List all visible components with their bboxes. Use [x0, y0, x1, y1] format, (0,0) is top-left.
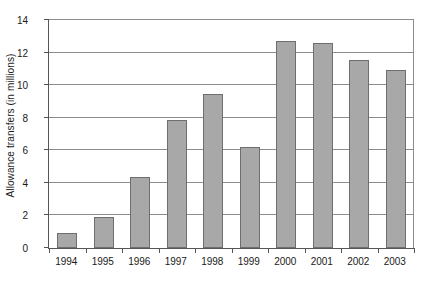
y-axis-title: Allowance transfers (in millions) [0, 0, 22, 250]
x-tick-2003 [378, 248, 379, 253]
x-tick-1995 [86, 248, 87, 253]
x-tick-label-2003: 2003 [384, 256, 406, 267]
x-tick-1996 [122, 248, 123, 253]
y-tick-label-12: 12 [17, 47, 28, 58]
bar-slot [378, 20, 415, 248]
plot-area: 02468101214 [48, 20, 414, 249]
bar-slot [86, 20, 123, 248]
x-tick-label-1997: 1997 [165, 256, 187, 267]
bar-1994 [57, 233, 77, 248]
y-tick-label-4: 4 [22, 177, 28, 188]
bar-slot [122, 20, 159, 248]
bar-slot [49, 20, 86, 248]
x-tick-1994 [49, 248, 50, 253]
y-axis-title-label: Allowance transfers (in millions) [6, 53, 17, 197]
y-tick-label-10: 10 [17, 80, 28, 91]
x-tick-2001 [305, 248, 306, 253]
x-tick-1997 [159, 248, 160, 253]
y-tick-label-0: 0 [22, 243, 28, 254]
x-tick-end [414, 248, 415, 253]
x-tick-2000 [268, 248, 269, 253]
bar-slot [305, 20, 342, 248]
bar-slot [232, 20, 269, 248]
x-tick-label-2001: 2001 [311, 256, 333, 267]
x-tick-1998 [195, 248, 196, 253]
bar-2003 [386, 70, 406, 248]
x-tick-label-1996: 1996 [128, 256, 150, 267]
bar-slot [195, 20, 232, 248]
y-tick-label-2: 2 [22, 210, 28, 221]
x-axis-labels: 1994199519961997199819992000200120022003 [48, 256, 414, 272]
bar-slot [268, 20, 305, 248]
bar-slot [159, 20, 196, 248]
x-tick-label-2000: 2000 [274, 256, 296, 267]
bar-1998 [203, 94, 223, 248]
bar-1997 [167, 120, 187, 248]
x-tick-label-1998: 1998 [201, 256, 223, 267]
y-tick-label-14: 14 [17, 15, 28, 26]
bar-slot [341, 20, 378, 248]
x-tick-1999 [232, 248, 233, 253]
bar-2002 [349, 60, 369, 248]
bar-1996 [130, 177, 150, 248]
bar-2000 [276, 41, 296, 248]
bars-layer [49, 20, 414, 248]
x-tick-label-1994: 1994 [55, 256, 77, 267]
x-tick-label-1999: 1999 [238, 256, 260, 267]
y-tick-label-6: 6 [22, 145, 28, 156]
x-tick-label-1995: 1995 [92, 256, 114, 267]
bar-1999 [240, 147, 260, 248]
bar-2001 [313, 43, 333, 248]
y-tick-label-8: 8 [22, 112, 28, 123]
bar-1995 [94, 217, 114, 248]
bar-chart-figure: Allowance transfers (in millions) 024681… [0, 0, 425, 283]
x-tick-2002 [341, 248, 342, 253]
x-tick-label-2002: 2002 [347, 256, 369, 267]
